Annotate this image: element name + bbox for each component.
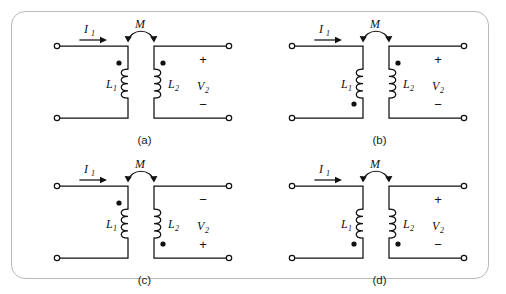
polarity-dot-right — [395, 241, 400, 246]
coil-right — [154, 209, 161, 238]
voltage-sublabel: 2 — [440, 226, 444, 235]
current-label: I — [83, 22, 89, 36]
circuit-c: M I 1 L 1 L 2 − V 2 + (c) — [18, 154, 271, 294]
inductor-left-sublabel: 1 — [348, 224, 352, 233]
inductor-right-sublabel: 2 — [410, 84, 414, 93]
polarity-dot-left — [116, 60, 121, 65]
polarity-bottom: − — [199, 97, 207, 112]
coil-right — [389, 69, 396, 98]
terminal-left-top — [54, 43, 59, 48]
polarity-dot-left — [351, 241, 356, 246]
polarity-top: + — [434, 192, 442, 207]
terminal-right-top — [226, 183, 231, 188]
polarity-top: − — [199, 192, 207, 207]
current-arrow-head — [100, 177, 107, 183]
circuit-c-caption: (c) — [18, 274, 271, 286]
inductor-right-sublabel: 2 — [410, 224, 414, 233]
mutual-arrow-right — [385, 36, 392, 43]
polarity-dot-right — [160, 241, 165, 246]
current-arrow-head — [335, 37, 342, 43]
coil-left — [356, 209, 363, 238]
circuit-d-caption: (d) — [253, 274, 506, 286]
circuit-d: M I 1 L 1 L 2 + V 2 − (d) — [253, 154, 506, 294]
circuit-d-schematic: M I 1 L 1 L 2 + V 2 − — [253, 154, 506, 294]
terminal-right-bottom — [226, 255, 231, 260]
circuit-a: M I 1 L 1 L 2 + V 2 − (a) — [18, 14, 271, 154]
inductor-right-sublabel: 2 — [175, 224, 179, 233]
mutual-arrow-right — [150, 36, 157, 43]
voltage-sublabel: 2 — [205, 226, 209, 235]
coil-left — [121, 209, 128, 238]
mutual-arrow-left — [125, 176, 132, 183]
mutual-label: M — [134, 157, 146, 171]
inductor-right-label: L — [402, 77, 410, 91]
polarity-top: + — [199, 52, 207, 67]
mutual-arrow-left — [360, 36, 367, 43]
inductor-left-label: L — [340, 217, 348, 231]
current-label: I — [318, 22, 324, 36]
polarity-bottom: − — [434, 237, 442, 252]
terminal-left-top — [289, 183, 294, 188]
current-sublabel: 1 — [91, 169, 95, 178]
circuit-b-caption: (b) — [253, 134, 506, 146]
inductor-left-sublabel: 1 — [113, 84, 117, 93]
mutual-arc — [363, 31, 389, 41]
polarity-bottom: − — [434, 97, 442, 112]
mutual-arrow-right — [150, 176, 157, 183]
current-label: I — [318, 162, 324, 176]
inductor-left-label: L — [105, 77, 113, 91]
current-label: I — [83, 162, 89, 176]
terminal-right-top — [461, 183, 466, 188]
inductor-right-label: L — [402, 217, 410, 231]
voltage-sublabel: 2 — [205, 86, 209, 95]
mutual-arc — [128, 31, 154, 41]
polarity-dot-left — [351, 101, 356, 106]
terminal-left-bottom — [54, 255, 59, 260]
circuit-b: M I 1 L 1 L 2 + V 2 − (b) — [253, 14, 506, 154]
circuit-c-schematic: M I 1 L 1 L 2 − V 2 + — [18, 154, 271, 294]
mutual-arrow-left — [125, 36, 132, 43]
inductor-right-label: L — [167, 217, 175, 231]
coil-left — [121, 69, 128, 98]
current-arrow-head — [100, 37, 107, 43]
circuit-b-schematic: M I 1 L 1 L 2 + V 2 − — [253, 14, 506, 154]
inductor-right-sublabel: 2 — [175, 84, 179, 93]
polarity-dot-right — [160, 60, 165, 65]
current-sublabel: 1 — [326, 29, 330, 38]
coil-right — [154, 69, 161, 98]
terminal-left-top — [54, 183, 59, 188]
polarity-dot-right — [395, 60, 400, 65]
inductor-left-sublabel: 1 — [348, 84, 352, 93]
polarity-dot-left — [116, 200, 121, 205]
inductor-left-sublabel: 1 — [113, 224, 117, 233]
circuit-a-caption: (a) — [18, 134, 271, 146]
terminal-left-bottom — [54, 115, 59, 120]
coil-left — [356, 69, 363, 98]
terminal-right-top — [226, 43, 231, 48]
mutual-label: M — [134, 17, 146, 31]
inductor-left-label: L — [340, 77, 348, 91]
current-sublabel: 1 — [326, 169, 330, 178]
mutual-arc — [128, 171, 154, 181]
current-sublabel: 1 — [91, 29, 95, 38]
inductor-left-label: L — [105, 217, 113, 231]
mutual-label: M — [369, 17, 381, 31]
inductor-right-label: L — [167, 77, 175, 91]
terminal-right-bottom — [461, 115, 466, 120]
terminal-left-top — [289, 43, 294, 48]
circuit-a-schematic: M I 1 L 1 L 2 + V 2 − — [18, 14, 271, 154]
voltage-sublabel: 2 — [440, 86, 444, 95]
mutual-label: M — [369, 157, 381, 171]
terminal-right-bottom — [226, 115, 231, 120]
terminal-left-bottom — [289, 255, 294, 260]
coil-right — [389, 209, 396, 238]
terminal-left-bottom — [289, 115, 294, 120]
polarity-top: + — [434, 52, 442, 67]
mutual-arrow-right — [385, 176, 392, 183]
mutual-inductance-figure: M I 1 L 1 L 2 + V 2 − (a) — [0, 0, 506, 294]
terminal-right-top — [461, 43, 466, 48]
polarity-bottom: + — [199, 237, 207, 252]
mutual-arrow-left — [360, 176, 367, 183]
mutual-arc — [363, 171, 389, 181]
current-arrow-head — [335, 177, 342, 183]
